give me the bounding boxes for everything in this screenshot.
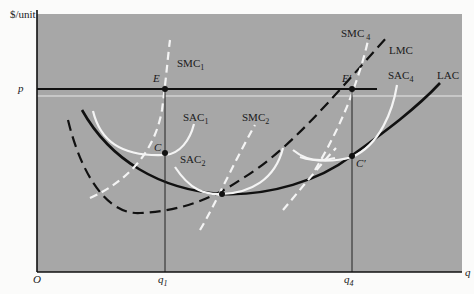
x-axis-label: q [465, 266, 471, 278]
q4-tick-label: q4 [344, 273, 354, 288]
origin-label: O [33, 273, 41, 285]
point-c [162, 150, 168, 156]
lmc-label: LMC [389, 44, 413, 56]
e-label: E [152, 72, 160, 84]
point-e-prime [349, 86, 355, 92]
point-lac-min [219, 191, 225, 197]
e-prime-label: E′ [341, 72, 352, 84]
point-e [162, 86, 168, 92]
cost-curves-chart: $/unit q O p q1 q4 E C E′ C′ SMC1 SAC1 S… [0, 0, 474, 294]
point-c-prime [349, 153, 355, 159]
q1-tick-label: q1 [158, 273, 168, 288]
lac-label: LAC [437, 69, 459, 81]
c-label: C [154, 141, 162, 153]
p-tick-label: p [17, 82, 24, 94]
y-axis-label: $/unit [10, 8, 36, 20]
c-prime-label: C′ [356, 157, 366, 169]
